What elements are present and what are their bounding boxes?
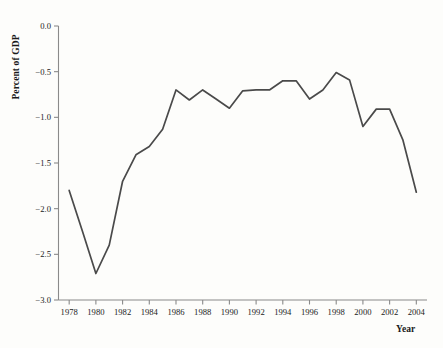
x-tick-label: 1982 [114,307,131,317]
x-tick-label: 2000 [354,307,371,317]
x-tick-label: 1998 [328,307,345,317]
x-tick-label: 1986 [167,307,185,317]
x-tick-label: 1990 [221,307,238,317]
x-tick-label: 2002 [381,307,398,317]
y-tick-label: −0.5 [35,67,51,77]
y-tick-label: 0.0 [40,21,51,31]
x-tick-label: 1978 [61,307,78,317]
x-axis: 1978198019821984198619881990199219941996… [59,300,428,317]
x-tick-label: 1992 [248,307,265,317]
x-tick-label: 1996 [301,307,319,317]
x-tick-label: 1980 [87,307,104,317]
x-tick-label: 1984 [141,307,159,317]
x-tick-label: 1988 [194,307,211,317]
x-tick-label: 2004 [408,307,426,317]
y-tick-label: −3.0 [35,295,51,305]
series-line [69,73,416,274]
y-tick-label: −2.0 [35,204,51,214]
data-series-group [69,73,416,274]
y-tick-label: −1.5 [35,158,51,168]
line-chart-plot: 0.0−0.5−1.0−1.5−2.0−2.5−3.0 197819801982… [0,0,443,348]
y-tick-label: −1.0 [35,112,51,122]
y-axis: 0.0−0.5−1.0−1.5−2.0−2.5−3.0 [35,21,58,305]
y-tick-label: −2.5 [35,249,51,259]
x-tick-label: 1994 [274,307,292,317]
chart-container: Percent of GDP Year 0.0−0.5−1.0−1.5−2.0−… [0,0,443,348]
